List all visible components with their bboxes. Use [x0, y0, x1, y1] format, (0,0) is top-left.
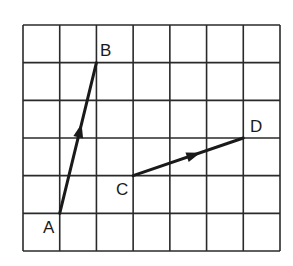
arrowhead-icon [73, 124, 83, 139]
grid-vector-diagram: A B C D [0, 0, 293, 266]
label-a: A [43, 218, 55, 237]
label-d: D [250, 117, 262, 136]
point-labels: A B C D [43, 41, 262, 237]
label-c: C [116, 180, 128, 199]
vector-cd [133, 138, 243, 176]
label-b: B [100, 41, 111, 60]
arrowhead-icon [185, 152, 200, 161]
